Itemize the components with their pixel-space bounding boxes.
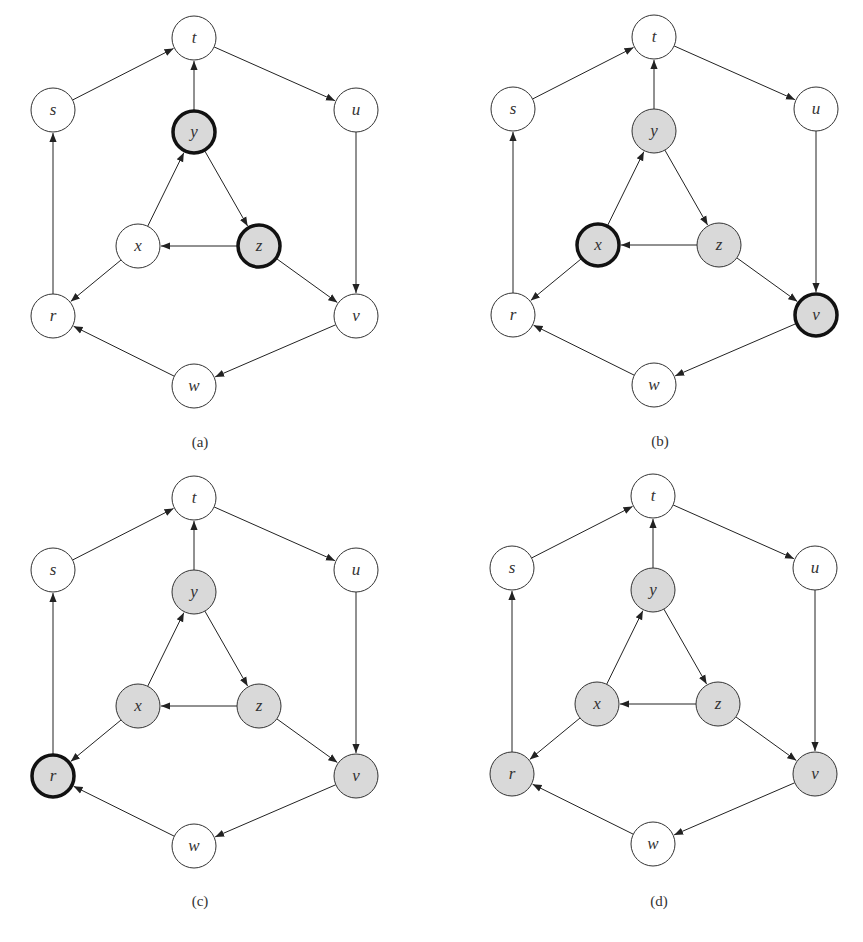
node-x: x [575,682,619,726]
edge-x-r [530,718,580,759]
node-s: s [490,546,534,590]
panel-d: tsuyxzrvw [0,0,430,470]
svg-text:z: z [714,694,722,713]
node-y: y [631,568,675,612]
node-r: r [490,752,534,796]
edge-x-y [607,611,643,685]
node-w: w [631,822,675,866]
node-v: v [793,752,837,796]
svg-text:y: y [647,580,657,599]
caption-d: (d) [629,893,689,910]
svg-text:u: u [811,558,820,577]
svg-text:x: x [592,694,601,713]
edge-v-w [674,783,795,835]
edge-t-u [673,505,794,559]
node-z: z [696,682,740,726]
svg-text:w: w [647,834,659,853]
svg-text:s: s [509,558,516,577]
edge-y-z [664,609,707,684]
edge-z-v [736,717,797,761]
node-t: t [631,474,675,518]
svg-text:r: r [509,764,516,783]
node-u: u [793,546,837,590]
svg-text:v: v [811,764,819,783]
graph-d: tsuyxzrvw [0,0,863,942]
edge-s-t [532,506,633,558]
edge-w-r [533,784,634,834]
